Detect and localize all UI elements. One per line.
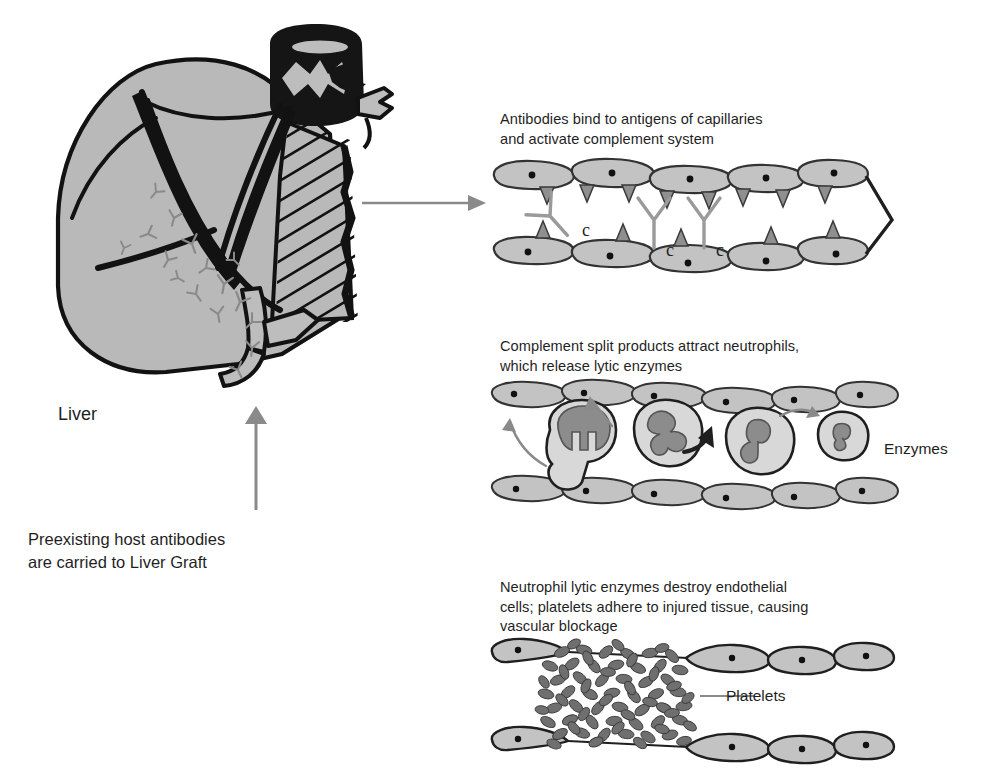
neutrophil-1 <box>547 400 617 489</box>
hepatic-vein-tail <box>364 118 370 148</box>
capillary-top-row-2 <box>492 380 898 413</box>
panel-vascular-blockage <box>488 636 888 766</box>
neutrophil-3 <box>726 408 794 474</box>
liver-to-capillary-arrow <box>362 192 488 214</box>
complement-label-2: c <box>666 240 674 260</box>
panel-2-caption: Complement split products attract neutro… <box>500 337 890 376</box>
liver-organ-label: Liver <box>58 404 97 425</box>
neutrophil-2 <box>634 400 702 466</box>
platelets-label: Platelets <box>726 687 785 705</box>
liver-svg <box>28 22 428 422</box>
vena-cava-lumen <box>292 41 348 54</box>
liver-graft-caption: Preexisting host antibodies are carried … <box>28 528 328 574</box>
panel-1-caption: Antibodies bind to antigens of capillari… <box>500 110 870 149</box>
capillary-closure-vertex <box>866 176 892 254</box>
neutrophil-4 <box>818 412 868 461</box>
panel-3-caption: Neutrophil lytic enzymes destroy endothe… <box>500 578 900 637</box>
liver-illustration <box>28 22 428 422</box>
panel-neutrophil-attraction <box>488 378 878 518</box>
panel-antibody-binding: c c c <box>488 158 848 278</box>
figure-canvas: Liver Preexisting host antibodies are ca… <box>0 0 991 781</box>
complement-label-1: c <box>582 220 590 240</box>
antibody-flow-arrow <box>236 402 276 512</box>
enzymes-label: Enzymes <box>884 440 948 458</box>
complement-label-3: c <box>716 240 724 260</box>
